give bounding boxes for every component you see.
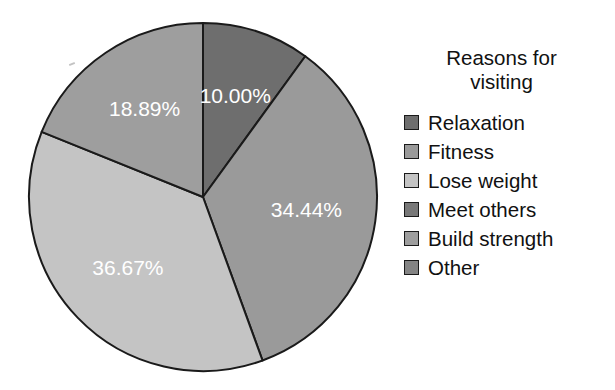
pie-slice-label: 18.89% (109, 97, 180, 120)
legend-item-label: Meet others (428, 200, 536, 221)
pie-svg: 10.00%34.44%36.67%18.89% (20, 14, 386, 380)
pie-plot-area: 10.00%34.44%36.67%18.89% (20, 14, 386, 380)
legend-color-swatch (404, 173, 419, 188)
legend-item[interactable]: Relaxation (404, 108, 611, 137)
legend-item[interactable]: Other (404, 253, 611, 282)
legend-color-swatch (404, 260, 419, 275)
pie-slice-label: 10.00% (200, 84, 271, 107)
legend: Reasons for visiting RelaxationFitnessLo… (396, 46, 611, 282)
legend-color-swatch (404, 202, 419, 217)
legend-item-label: Other (428, 258, 479, 279)
legend-item-list: RelaxationFitnessLose weightMeet othersB… (396, 108, 611, 282)
legend-item-label: Relaxation (428, 113, 525, 134)
legend-item[interactable]: Meet others (404, 195, 611, 224)
legend-item[interactable]: Build strength (404, 224, 611, 253)
pie-slice-label: 36.67% (92, 256, 163, 279)
legend-item-label: Lose weight (428, 171, 537, 192)
legend-item-label: Fitness (428, 142, 494, 163)
legend-color-swatch (404, 231, 419, 246)
legend-title: Reasons for visiting (396, 46, 611, 94)
pie-slice-group (29, 23, 377, 371)
legend-item-label: Build strength (428, 229, 553, 250)
pie-chart-figure: 10.00%34.44%36.67%18.89% Reasons for vis… (0, 0, 615, 390)
legend-item[interactable]: Lose weight (404, 166, 611, 195)
legend-color-swatch (404, 115, 419, 130)
legend-item[interactable]: Fitness (404, 137, 611, 166)
legend-color-swatch (404, 144, 419, 159)
pie-slice-label: 34.44% (271, 198, 342, 221)
